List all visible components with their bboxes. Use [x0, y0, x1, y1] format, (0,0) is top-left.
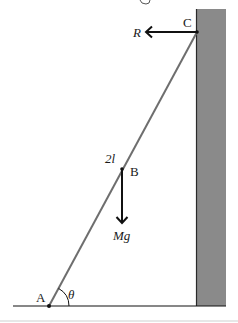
ladder-diagram: C R 2l B Mg A θ — [0, 0, 238, 323]
label-reaction-force: R — [132, 25, 141, 40]
label-point-b: B — [130, 164, 139, 179]
point-a-dot — [47, 304, 51, 308]
label-angle-theta: θ — [68, 287, 75, 302]
label-point-c: C — [183, 15, 192, 30]
label-length: 2l — [105, 151, 116, 166]
wall — [196, 9, 226, 306]
label-point-a: A — [36, 290, 46, 305]
label-weight: Mg — [112, 228, 131, 243]
cropped-glyph-fragment — [140, 0, 150, 4]
